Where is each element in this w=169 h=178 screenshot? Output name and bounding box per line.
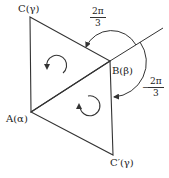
vertex-label-c-prime: C′(γ) bbox=[110, 158, 134, 168]
extension-line bbox=[110, 28, 163, 61]
rotation-arrowhead-2 bbox=[76, 103, 82, 109]
lower-angle-label: 2π 3 bbox=[148, 77, 164, 98]
vertex-label-a: A(α) bbox=[6, 114, 28, 124]
upper-angle-arc bbox=[86, 31, 136, 47]
triangle-abc bbox=[30, 17, 110, 112]
upper-angle-label: 2π 3 bbox=[90, 7, 106, 28]
vertex-label-b: B(β) bbox=[112, 66, 133, 76]
vertex-label-c: C(γ) bbox=[18, 4, 39, 14]
rotation-icon-counterclockwise bbox=[80, 96, 100, 116]
triangle-abc-prime bbox=[31, 61, 113, 155]
rotation-arrowhead-1 bbox=[44, 64, 50, 70]
